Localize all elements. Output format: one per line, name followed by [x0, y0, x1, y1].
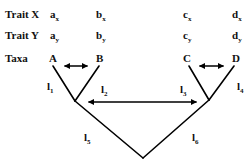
branch-l6	[143, 100, 209, 158]
branch-label-l2: l2	[101, 83, 108, 97]
branch-l4	[209, 66, 234, 100]
branch-l1	[53, 66, 75, 101]
branch-label-l1: l1	[47, 80, 54, 94]
branch-l5	[75, 101, 143, 158]
branch-l3	[189, 66, 209, 100]
branch-label-l5: l5	[84, 131, 91, 145]
phylogenetic-tree	[0, 0, 250, 162]
branch-label-l4: l4	[237, 80, 244, 94]
branch-label-l6: l6	[192, 131, 199, 145]
branch-l2	[75, 66, 99, 101]
branch-label-l3: l3	[180, 83, 187, 97]
